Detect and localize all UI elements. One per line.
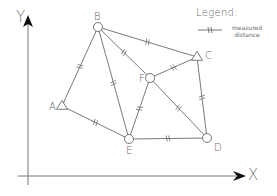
node-label-D: D (214, 143, 222, 153)
node-B-circle-icon (94, 23, 103, 32)
edge-AB (62, 27, 98, 106)
x-axis-label: X (248, 168, 258, 183)
node-D-circle-icon (203, 134, 212, 143)
legend-tick-icon (208, 27, 209, 33)
node-label-C: C (205, 51, 212, 61)
edge-FD (150, 78, 207, 138)
legend-label-line2: distance (227, 31, 267, 38)
node-E-circle-icon (125, 135, 134, 144)
measured-tick-icon (136, 109, 142, 110)
legend-symbol (198, 27, 222, 33)
node-label-A: A (49, 102, 56, 112)
edge-CF (150, 57, 197, 78)
node-A-triangle-icon (57, 101, 68, 110)
y-axis-label: Y (16, 10, 25, 25)
edge-FE (129, 78, 150, 139)
edges (62, 27, 207, 139)
edge-AE (62, 106, 129, 139)
node-label-F: F (139, 74, 145, 84)
node-label-E: E (126, 146, 132, 156)
measured-tick-icon (171, 66, 175, 71)
legend-description: measured distance (227, 24, 267, 38)
measured-tick-icon (146, 39, 147, 45)
measured-tick-icon (137, 107, 143, 108)
legend-label-line1: measured (227, 24, 267, 31)
edge-CD (197, 57, 207, 138)
node-label-B: B (94, 12, 101, 22)
measured-tick-icon (121, 49, 124, 54)
node-F-circle-icon (146, 74, 155, 83)
measured-tick-icon (173, 64, 177, 69)
measured-tick-icon (148, 39, 149, 45)
legend-tick-icon (211, 27, 212, 33)
axes (18, 15, 246, 185)
edge-BE (98, 27, 129, 139)
measured-tick-icon (123, 51, 126, 56)
edge-ED (129, 138, 207, 139)
legend-title: Legend: (196, 8, 238, 18)
